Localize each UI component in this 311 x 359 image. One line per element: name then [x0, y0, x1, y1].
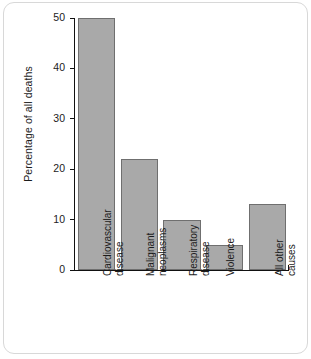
category-label-line: Respiratory: [188, 225, 200, 276]
y-axis-tick-label: 30: [43, 112, 65, 124]
x-axis-category-label: All othercauses: [274, 239, 297, 276]
x-axis-category-label: Violence: [225, 238, 237, 276]
y-axis-tick-label: 40: [43, 61, 65, 73]
category-label-line: Cardiovascular: [102, 209, 114, 276]
x-axis-category-label: Malignantneoplasms: [145, 228, 168, 276]
y-axis-tick-label: 20: [43, 162, 65, 174]
category-label-line: Malignant: [145, 228, 157, 276]
category-label-line: neoplasms: [157, 228, 169, 276]
category-label-line: All other: [274, 239, 286, 276]
y-axis-tick-label: 0: [43, 263, 65, 275]
y-axis-tick-label: 50: [43, 11, 65, 23]
x-axis-category-label: Cardiovasculardisease: [102, 209, 125, 276]
y-axis-label: Percentage of all deaths: [22, 44, 34, 204]
x-axis-category-label: Respiratorydisease: [188, 225, 211, 276]
category-label-line: causes: [285, 239, 297, 276]
category-label-line: Violence: [225, 238, 237, 276]
y-axis-tick-label: 10: [43, 213, 65, 225]
bar-chart: Percentage of all deaths 01020304050 Car…: [0, 0, 311, 359]
category-label-line: disease: [114, 209, 126, 276]
category-label-line: disease: [200, 225, 212, 276]
